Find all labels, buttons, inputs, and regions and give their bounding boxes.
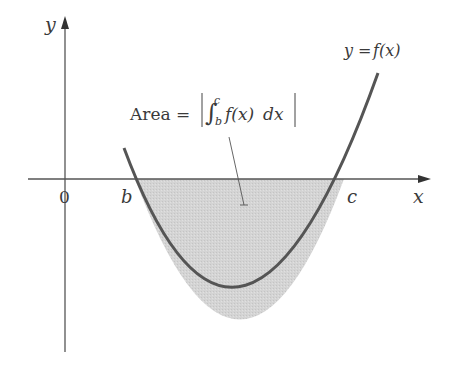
- svg-text:y: y: [343, 41, 354, 60]
- point-c-label: c: [347, 186, 357, 207]
- area-diagram: y x 0 b c y = f(x) Area = ∫ c b f(x) dx: [0, 0, 449, 368]
- x-axis-label: x: [413, 185, 424, 207]
- curve-label: y = f(x): [343, 41, 400, 60]
- svg-text:f(x): f(x): [372, 41, 400, 60]
- upper-limit: c: [214, 94, 220, 107]
- lower-limit: b: [215, 115, 222, 128]
- y-axis-label: y: [44, 13, 56, 35]
- y-axis: [61, 16, 69, 352]
- differential: dx: [263, 104, 284, 124]
- area-formula: Area = ∫ c b f(x) dx: [129, 93, 295, 128]
- y-axis-arrow-icon: [61, 16, 69, 29]
- point-b-label: b: [121, 186, 133, 207]
- origin-label: 0: [59, 187, 70, 207]
- area-prefix: Area =: [129, 104, 190, 124]
- x-axis-arrow-icon: [418, 175, 431, 183]
- shaded-area-region: [135, 179, 344, 320]
- integrand: f(x): [223, 104, 254, 124]
- svg-text:=: =: [358, 41, 371, 60]
